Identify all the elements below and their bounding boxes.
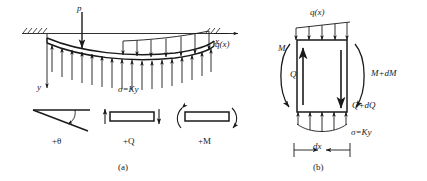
sign-convention-q <box>105 109 159 124</box>
convention-theta-label: +θ <box>52 137 61 146</box>
panel-b-q-label: q(x) <box>310 8 325 17</box>
shear-left-label: Q <box>290 70 297 79</box>
right-support-hatching <box>206 28 220 33</box>
figure-canvas <box>0 0 427 181</box>
panel-b-load-group <box>296 22 350 40</box>
sign-convention-m <box>177 108 236 128</box>
y-axis-label: y <box>37 83 41 92</box>
engineering-figure: p x y q(x) σ=Ky +θ +Q +M (a) q(x) M Q M+… <box>0 0 427 181</box>
differential-element-box <box>297 40 347 112</box>
moment-left-arc <box>281 44 290 107</box>
point-load-label: p <box>77 4 82 13</box>
panel-b-caption: (b) <box>313 163 324 172</box>
panel-a-caption: (a) <box>118 163 128 172</box>
moment-right-arc <box>355 44 364 107</box>
left-support-hatching <box>23 28 47 33</box>
panel-a-group <box>22 12 238 131</box>
panel-a-q-label: q(x) <box>215 40 230 49</box>
sign-convention-theta <box>33 110 90 131</box>
foundation-pressure-envelope <box>50 70 212 85</box>
moment-left-label: M <box>278 44 286 53</box>
dx-label: dx <box>313 142 322 151</box>
convention-q-label: +Q <box>123 137 135 146</box>
convention-m-label: +M <box>198 137 211 146</box>
panel-a-foundation-stress-label: σ=Ky <box>118 85 139 94</box>
moment-right-label: M+dM <box>371 69 397 78</box>
shear-right-label: Q+dQ <box>352 101 376 110</box>
panel-b-foundation-stress-label: σ=Ky <box>351 128 372 137</box>
dx-dimension <box>294 143 350 157</box>
